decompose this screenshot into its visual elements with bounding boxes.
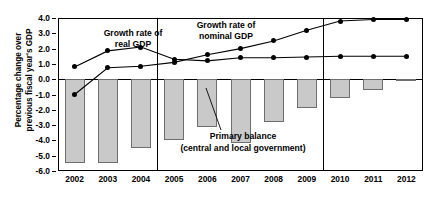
y-tick-mark [52, 33, 56, 34]
y-tick-label: 0.0 [24, 74, 50, 84]
x-tick-label-2007: 2007 [224, 174, 258, 185]
y-tick-mark [52, 125, 56, 126]
x-tick-label-2004: 2004 [124, 174, 158, 185]
y-tick-mark [52, 95, 56, 96]
plot-area: Growth rate of real GDP Growth rate of n… [58, 18, 423, 171]
y-tick-mark [52, 171, 56, 172]
y-tick-mark [52, 18, 56, 19]
y-tick-mark [52, 64, 56, 65]
y-tick-label: -5.0 [24, 151, 50, 161]
y-axis-title-line1: Percentage change over [13, 33, 24, 128]
x-tick-label-2009: 2009 [290, 174, 324, 185]
x-tick-label-2012: 2012 [389, 174, 423, 185]
y-tick-label: 2.0 [24, 44, 50, 54]
x-tick-label-2008: 2008 [257, 174, 291, 185]
x-tick-label-2011: 2011 [356, 174, 390, 185]
y-tick-label: -1.0 [24, 90, 50, 100]
y-tick-mark [52, 156, 56, 157]
y-tick-label: -4.0 [24, 135, 50, 145]
y-tick-label: 4.0 [24, 13, 50, 23]
y-tick-label: -2.0 [24, 105, 50, 115]
y-tick-mark [52, 140, 56, 141]
chart-figure: Percentage change over previous fiscal y… [0, 0, 431, 197]
y-tick-label: -6.0 [24, 166, 50, 176]
y-tick-mark [52, 49, 56, 50]
y-tick-mark [52, 110, 56, 111]
y-tick-mark [52, 79, 56, 80]
y-tick-label: 1.0 [24, 59, 50, 69]
x-tick-label-2002: 2002 [58, 174, 92, 185]
x-tick-label-2005: 2005 [157, 174, 191, 185]
x-tick-label-2003: 2003 [91, 174, 125, 185]
y-tick-label: 3.0 [24, 28, 50, 38]
x-tick-label-2010: 2010 [323, 174, 357, 185]
y-tick-label: -3.0 [24, 120, 50, 130]
x-tick-label-2006: 2006 [190, 174, 224, 185]
primary-balance-leader-line [58, 18, 423, 171]
